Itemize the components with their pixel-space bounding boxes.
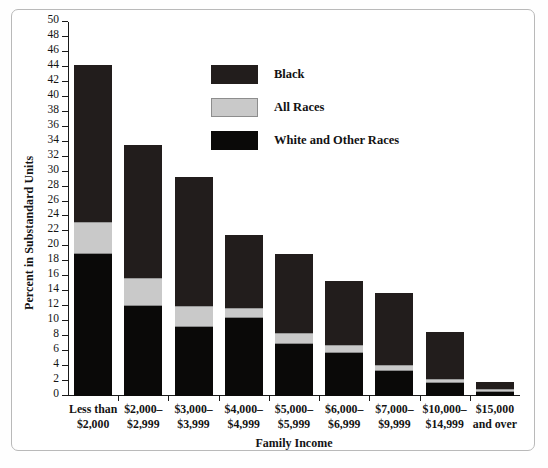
y-axis-tick-label: 2 [53,373,59,384]
x-axis-tick-label: $2,000– $2,999 [118,402,168,431]
bar-group [175,177,213,396]
y-axis-tick-label: 42 [48,74,60,85]
y-axis-label: Percent in Substandard Units [22,156,37,310]
bar-segment-all-races [225,308,263,318]
y-axis-tick: 48 [62,36,68,37]
x-axis-tick [470,396,471,401]
bar-segment-black [275,254,313,333]
black-swatch [211,65,258,84]
bar-segment-white-and-other-races [124,306,162,396]
y-axis-tick: 36 [62,126,68,127]
y-axis-tick: 10 [62,320,68,321]
y-axis-tick: 20 [62,245,68,246]
y-axis-tick-label: 22 [48,223,60,234]
y-axis-tick: 2 [62,380,68,381]
legend-item: Black [211,62,421,86]
y-axis-tick: 24 [62,215,68,216]
legend-item: All Races [211,95,421,119]
y-axis-tick-label: 14 [48,283,60,294]
x-axis-label: Family Income [68,436,520,451]
y-axis-tick: 34 [62,141,68,142]
y-axis-tick: 42 [62,81,68,82]
bar-group [426,332,464,396]
legend-item-label: Black [274,67,305,82]
y-axis-tick-label: 12 [48,298,60,309]
y-axis-tick: 16 [62,275,68,276]
y-axis-tick-label: 0 [53,388,59,399]
bar-segment-white-and-other-races [375,371,413,396]
bar-segment-white-and-other-races [476,392,514,396]
y-axis-tick-label: 4 [53,358,59,369]
bar-segment-all-races [426,379,464,383]
y-axis-tick: 32 [62,156,68,157]
gray-swatch [211,98,258,117]
bar-segment-all-races [74,222,112,254]
bar-segment-all-races [124,278,162,306]
y-axis-label-container: Percent in Substandard Units [19,0,35,374]
bar-segment-white-and-other-races [426,383,464,396]
y-axis-tick-label: 24 [48,208,60,219]
x-axis-tick-label: $4,000– $4,999 [219,402,269,431]
y-axis-tick: 46 [62,51,68,52]
legend-item-label: White and Other Races [274,133,399,148]
x-axis-tick [369,396,370,401]
y-axis-tick-label: 6 [53,343,59,354]
bar-segment-white-and-other-races [74,254,112,396]
y-axis-tick: 18 [62,260,68,261]
bar-group [225,235,263,396]
bar-segment-all-races [375,365,413,371]
y-axis-tick-label: 16 [48,268,60,279]
x-axis-tick [420,396,421,401]
bar-segment-black [375,293,413,365]
y-axis-tick-label: 40 [48,89,60,100]
bar-group [325,281,363,396]
bar-segment-black [74,65,112,222]
bar-group [375,293,413,396]
bar-segment-white-and-other-races [275,344,313,396]
legend-item: White and Other Races [211,128,421,152]
bar-group [74,65,112,396]
x-axis-tick [219,396,220,401]
bar-segment-all-races [175,306,213,327]
bar-segment-all-races [325,345,363,352]
bar-segment-black [325,281,363,345]
y-axis-tick: 30 [62,171,68,172]
y-axis-tick-label: 48 [48,29,60,40]
y-axis-tick: 26 [62,201,68,202]
x-axis-tick-label: $15,000 and over [470,402,520,431]
bar-group [124,145,162,396]
bar-group [275,254,313,396]
y-axis-tick-label: 20 [48,238,60,249]
y-axis-tick-label: 50 [48,14,60,25]
y-axis-tick: 50 [62,21,68,22]
y-axis-tick: 38 [62,111,68,112]
bar-segment-white-and-other-races [225,318,263,396]
bar-segment-black [175,177,213,306]
legend: BlackAll RacesWhite and Other Races [211,62,421,161]
y-axis-tick: 4 [62,365,68,366]
y-axis-tick-label: 10 [48,313,60,324]
y-axis-tick: 6 [62,350,68,351]
y-axis-tick: 0 [62,395,68,396]
y-axis-tick: 28 [62,186,68,187]
x-axis-tick [168,396,169,401]
y-axis-tick: 40 [62,96,68,97]
x-axis-tick [319,396,320,401]
y-axis-tick: 12 [62,305,68,306]
x-axis-tick-label: $7,000– $9,999 [369,402,419,431]
y-axis-tick-label: 44 [48,59,60,70]
bar-segment-white-and-other-races [325,353,363,396]
y-axis-tick: 44 [62,66,68,67]
y-axis-tick-label: 8 [53,328,59,339]
x-axis-tick-label: $6,000– $6,999 [319,402,369,431]
x-axis-tick-label: $5,000– $5,999 [269,402,319,431]
bar-segment-all-races [476,389,514,391]
x-axis-tick-label: $3,000– $3,999 [168,402,218,431]
bar-segment-black [124,145,162,278]
y-axis-tick-label: 36 [48,119,60,130]
bar-segment-black [426,332,464,379]
y-axis-tick-label: 18 [48,253,60,264]
bar-segment-all-races [275,333,313,343]
x-axis-tick-label: Less than $2,000 [68,402,118,431]
bar-segment-white-and-other-races [175,327,213,396]
